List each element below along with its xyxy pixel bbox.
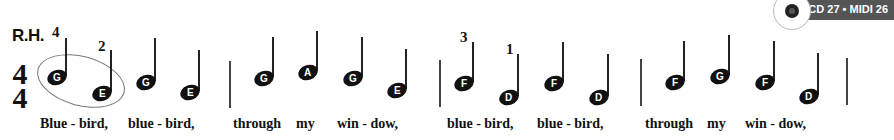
note-letter: G bbox=[53, 70, 61, 85]
lyric-word: through bbox=[645, 116, 693, 132]
note-stem bbox=[361, 37, 363, 77]
lyric-word: Blue - bird, bbox=[40, 116, 108, 132]
track-label: CD 27 • MIDI 26 bbox=[808, 3, 888, 15]
note-stem bbox=[817, 53, 819, 95]
note-stem bbox=[517, 54, 519, 96]
barline bbox=[439, 60, 441, 107]
note-letter: D bbox=[505, 90, 512, 105]
note-letter: F bbox=[461, 76, 467, 91]
note-letter: D bbox=[595, 90, 602, 105]
barline bbox=[846, 58, 848, 105]
fingering-number: 2 bbox=[98, 38, 106, 55]
note-letter: G bbox=[260, 71, 268, 86]
lyric-word: my bbox=[296, 116, 315, 132]
barline bbox=[229, 61, 231, 108]
barline bbox=[640, 59, 642, 106]
lyric-word: my bbox=[707, 116, 726, 132]
note-stem bbox=[472, 42, 474, 82]
note-letter: E bbox=[187, 85, 194, 100]
note-stem bbox=[65, 38, 67, 76]
lyric-word: blue - bird, bbox=[447, 116, 514, 132]
note-stem bbox=[607, 54, 609, 96]
note-letter: A bbox=[304, 65, 311, 80]
note-letter: E bbox=[394, 83, 401, 98]
note-letter: G bbox=[716, 69, 724, 84]
lyric-word: blue - bird, bbox=[537, 116, 604, 132]
fingering-number: 4 bbox=[52, 24, 60, 41]
fingering-number: 3 bbox=[460, 29, 468, 46]
note-letter: D bbox=[805, 89, 812, 104]
note-letter: G bbox=[142, 75, 150, 90]
note-letter: F bbox=[672, 75, 678, 90]
note-letter: G bbox=[349, 71, 357, 86]
note-stem bbox=[272, 37, 274, 77]
hand-label: R.H. bbox=[12, 26, 44, 46]
lyric-word: win - dow, bbox=[745, 116, 806, 132]
phrase-circle bbox=[31, 45, 131, 117]
note-stem bbox=[154, 38, 156, 81]
note-stem bbox=[316, 31, 318, 71]
note-stem bbox=[405, 49, 407, 89]
note-letter: F bbox=[551, 76, 557, 91]
note-stem bbox=[683, 41, 685, 81]
time-signature-bottom: 4 bbox=[8, 86, 32, 110]
note-stem bbox=[728, 35, 730, 75]
lyric-word: win - dow, bbox=[337, 116, 398, 132]
fingering-number: 1 bbox=[506, 41, 514, 58]
sheet-music-staff: CD 27 • MIDI 26 R.H. 4 4 4231GEGEGAGEFDF… bbox=[0, 0, 894, 140]
note-stem bbox=[562, 42, 564, 82]
note-letter: F bbox=[762, 75, 768, 90]
lyric-word: through bbox=[233, 116, 281, 132]
lyric-word: blue - bird, bbox=[128, 116, 195, 132]
time-signature: 4 4 bbox=[8, 62, 32, 110]
note-letter: E bbox=[99, 86, 106, 101]
cd-icon bbox=[773, 0, 811, 30]
note-stem bbox=[110, 50, 112, 92]
note-stem bbox=[198, 50, 200, 91]
note-stem bbox=[773, 41, 775, 81]
